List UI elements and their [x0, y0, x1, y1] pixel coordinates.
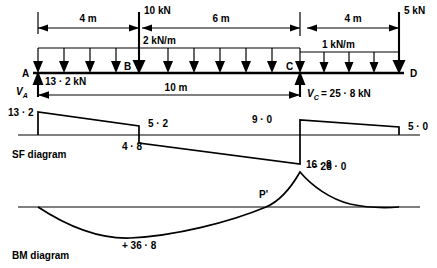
- dim-arrow-ab-right: [129, 24, 139, 31]
- sf-label-9-0: 9 · 0: [252, 114, 272, 125]
- point-load-group: 10 kN 5 kN: [133, 5, 426, 74]
- dim-arrow-bc-left: [142, 24, 152, 31]
- point-load-b-label: 10 kN: [144, 5, 171, 16]
- reaction-c-symbol: VC: [307, 88, 320, 101]
- dimension-line-group-top: 4 m 6 m 4 m: [38, 12, 399, 36]
- sf-diagram-title: SF diagram: [12, 149, 67, 160]
- bm-diagram-group: + 36 · 8 − 28 · 0 P' BM diagram: [12, 161, 420, 261]
- node-label-c: C: [286, 61, 293, 72]
- reaction-a-symbol: VA: [16, 86, 28, 99]
- udl-1kn-group: 1 kN/m: [300, 39, 399, 73]
- dim-label-ac: 10 m: [165, 82, 188, 93]
- node-label-d: D: [410, 68, 417, 79]
- udl-2kn-label: 2 kN/m: [143, 35, 176, 46]
- dim-label-cd: 4 m: [344, 13, 361, 24]
- figure-canvas: 4 m 6 m 4 m 10 kN 5 kN 2 kN/m: [0, 0, 437, 268]
- bm-label-p-prime: P': [259, 189, 268, 200]
- bm-curve: [38, 172, 399, 238]
- node-label-b: B: [124, 61, 131, 72]
- dim-arrow-ab-left: [38, 24, 48, 31]
- reaction-c-value-label: = 25 · 8 kN: [321, 88, 371, 99]
- bm-label-36-8: + 36 · 8: [122, 240, 157, 251]
- bm-diagram-title: BM diagram: [12, 250, 69, 261]
- sf-curve: [38, 112, 399, 164]
- bm-label-28-0: − 28 · 0: [312, 161, 347, 172]
- dim-label-ab: 4 m: [79, 13, 96, 24]
- dim-arrow-bc-right: [290, 24, 300, 31]
- dim-arrow-cd-right: [389, 24, 399, 31]
- sf-label-5-0: 5 · 0: [408, 121, 428, 132]
- point-load-d-label: 5 kN: [404, 5, 425, 16]
- reaction-a-value-label: 13 · 2 kN: [45, 76, 86, 87]
- reaction-group: 13 · 2 kN VA VC = 25 · 8 kN: [16, 71, 371, 101]
- dim-arrow-ac-left: [38, 91, 49, 99]
- udl-2kn-arrows: [33, 48, 305, 73]
- sf-label-13-2: 13 · 2: [8, 107, 34, 118]
- node-label-a: A: [22, 68, 29, 79]
- udl-1kn-arrows: [320, 52, 379, 73]
- dim-arrow-cd-left: [307, 24, 317, 31]
- sf-diagram-group: 13 · 2 5 · 2 4 · 8 9 · 0 16 · 8 5 · 0 SF…: [8, 107, 428, 170]
- beam-analysis-figure: 4 m 6 m 4 m 10 kN 5 kN 2 kN/m: [0, 0, 437, 268]
- udl-1kn-label: 1 kN/m: [322, 39, 355, 50]
- dim-label-bc: 6 m: [212, 13, 229, 24]
- sf-label-4-8: 4 · 8: [122, 141, 142, 152]
- dim-arrow-ac-right: [289, 91, 300, 99]
- sf-label-5-2: 5 · 2: [148, 118, 168, 129]
- udl-2kn-group: 2 kN/m: [33, 35, 305, 73]
